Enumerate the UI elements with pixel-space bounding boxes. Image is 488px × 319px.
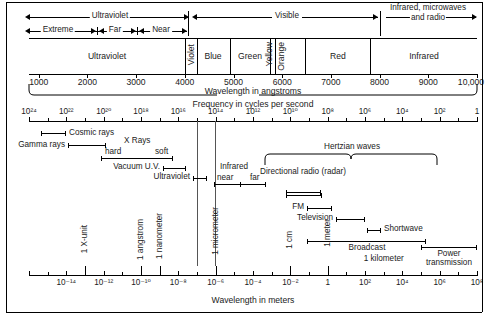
far-near-divider xyxy=(137,27,138,35)
meters-tick-label: 1 xyxy=(325,279,330,287)
meters-tick xyxy=(48,272,49,276)
unit-marker-label: 1 nanometer xyxy=(156,213,164,259)
label-cosmic-rays: Cosmic rays xyxy=(69,129,114,137)
label-shortwave: Shortwave xyxy=(384,225,423,233)
angstrom-axis-line xyxy=(29,74,477,75)
meters-tick xyxy=(328,271,329,276)
frequency-tick xyxy=(440,117,441,122)
frame-top xyxy=(6,2,482,3)
meters-tick xyxy=(290,271,291,276)
frequency-tick-label: 10⁸ xyxy=(321,108,334,116)
frequency-tick xyxy=(122,118,123,122)
meters-tick xyxy=(253,271,254,276)
frequency-tick xyxy=(365,117,366,122)
range-power-transmission xyxy=(421,247,477,248)
range-ultraviolet-region xyxy=(193,178,207,179)
extreme-label: Extreme xyxy=(41,26,75,34)
unit-marker-label: 1 cm xyxy=(286,231,294,249)
band-label-red: Red xyxy=(330,52,346,61)
meters-tick xyxy=(346,272,347,276)
meters-tick-label: 10⁻¹⁰ xyxy=(131,279,150,287)
frequency-tick xyxy=(141,117,142,122)
frequency-tick-label: 10²⁰ xyxy=(96,108,111,116)
band-label-green: Green xyxy=(238,52,262,61)
frequency-tick-label: 10¹⁴ xyxy=(208,108,223,116)
unit-marker-label: 1 meter xyxy=(324,219,332,247)
frequency-tick xyxy=(85,118,86,122)
frequency-tick xyxy=(104,117,105,122)
spectrum-figure: Ultraviolet Visible Infrared, microwaves… xyxy=(0,0,488,319)
frame-left xyxy=(6,2,7,312)
label-infrared-far: far xyxy=(250,174,260,182)
infrared-radio-arrow-right xyxy=(472,14,477,20)
band-box-top xyxy=(29,38,477,39)
near-label: Near xyxy=(150,26,172,34)
band-label-yellow: Yellow xyxy=(265,42,274,67)
meters-tick xyxy=(309,272,310,276)
meters-tick-label: 10⁻² xyxy=(282,279,298,287)
frequency-tick xyxy=(290,117,291,122)
frequency-tick xyxy=(328,117,329,122)
uv-visible-divider xyxy=(188,11,189,36)
label-fm: FM xyxy=(292,203,304,211)
frequency-tick-label: 10² xyxy=(434,108,446,116)
hertzian-brace xyxy=(0,152,488,168)
frequency-tick-label: 10²² xyxy=(59,108,74,116)
meters-tick xyxy=(160,272,161,276)
band-label-orange: Orange xyxy=(277,42,286,71)
meters-tick-label: 10² xyxy=(359,279,371,287)
label-power-transmission-line2: transmission xyxy=(426,259,472,267)
meters-tick xyxy=(384,272,385,276)
far-arrow-left xyxy=(99,28,104,34)
frequency-tick xyxy=(421,118,422,122)
label-infrared-near: near xyxy=(217,174,233,182)
visible-range-label: Visible xyxy=(272,12,302,20)
visible-ir-divider xyxy=(380,11,381,36)
meters-tick-label: 10⁻⁶ xyxy=(207,279,224,287)
range-fm xyxy=(307,208,332,209)
visible-arrow-right xyxy=(373,14,378,20)
near-arrow-right xyxy=(182,28,187,34)
meters-tick xyxy=(477,271,478,276)
range-infrared-mid-tick xyxy=(240,182,241,187)
meters-tick-label: 10⁻⁸ xyxy=(170,279,187,287)
range-vhf xyxy=(286,195,322,196)
frequency-tick xyxy=(48,118,49,122)
range-gamma-rays xyxy=(68,145,106,146)
far-label: Far xyxy=(107,26,123,34)
band-label-blue: Blue xyxy=(204,52,221,61)
label-broadcast: Broadcast xyxy=(349,244,386,252)
frequency-tick-label: 10⁶ xyxy=(359,108,371,116)
meters-tick xyxy=(85,272,86,276)
meters-tick xyxy=(197,272,198,276)
meters-tick-label: 10⁴ xyxy=(396,279,409,287)
band-divider-orange-red xyxy=(305,38,306,74)
frequency-tick xyxy=(346,118,347,122)
frequency-tick xyxy=(66,117,67,122)
band-label-violet: Violet xyxy=(187,44,196,65)
frequency-tick xyxy=(272,118,273,122)
meters-tick xyxy=(402,271,403,276)
meters-tick-label: 10⁶ xyxy=(433,279,445,287)
meters-tick-label: 10⁻⁴ xyxy=(245,279,262,287)
frame-right xyxy=(482,2,483,312)
frequency-tick xyxy=(178,117,179,122)
range-vacuum-uv xyxy=(163,168,186,169)
frequency-tick xyxy=(384,118,385,122)
extreme-far-divider xyxy=(97,27,98,35)
frequency-tick xyxy=(234,118,235,122)
frame-bottom xyxy=(6,312,482,313)
label-ultraviolet-region: Ultraviolet xyxy=(154,173,190,181)
label-hertzian-waves: Hertzian waves xyxy=(324,143,380,151)
frequency-tick xyxy=(477,117,478,122)
meters-tick xyxy=(272,272,273,276)
range-television xyxy=(336,219,365,220)
frequency-tick xyxy=(402,117,403,122)
range-directional-radio xyxy=(286,192,321,193)
range-shortwave xyxy=(367,230,381,231)
band-divider-violet-blue xyxy=(197,38,198,74)
frequency-tick-label: 10¹⁶ xyxy=(171,108,186,116)
frequency-tick-label: 10²⁴ xyxy=(21,108,36,116)
meters-tick xyxy=(178,271,179,276)
frequency-tick-label: 1 xyxy=(475,108,480,116)
